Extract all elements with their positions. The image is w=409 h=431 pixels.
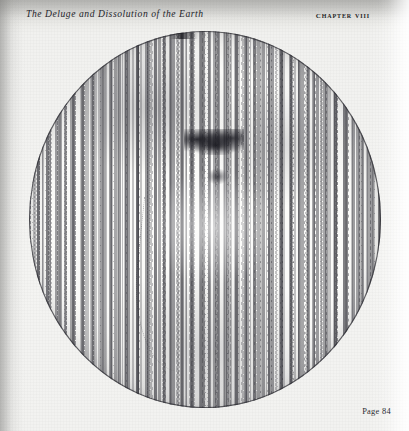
book-page: The Deluge and Dissolution of the Earth … (0, 0, 409, 431)
wave-hatching-texture (29, 31, 381, 408)
running-head-title: The Deluge and Dissolution of the Earth (26, 8, 204, 19)
earth-globe-illustration (29, 31, 381, 408)
page-folio: Page 84 (362, 407, 391, 416)
illustration-plate (29, 31, 381, 408)
chapter-label: Chapter VIII (316, 9, 370, 20)
running-head: The Deluge and Dissolution of the Earth … (26, 8, 386, 24)
